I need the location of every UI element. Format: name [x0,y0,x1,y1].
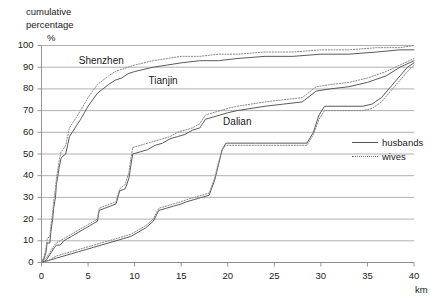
x-tick-label-30: 30 [309,270,333,281]
y-tick-label-90: 90 [12,61,34,72]
legend-swatch-husbands [352,142,378,143]
y-axis-title-line1: cumulative [26,6,71,17]
y-axis-title: cumulativepercentage [26,6,74,31]
series-label-tianjin: Tianjin [149,75,178,86]
x-tick-label-10: 10 [123,270,147,281]
legend-swatch-wives [352,156,378,157]
y-tick-label-60: 60 [12,126,34,137]
curve-dalian-wives [42,65,415,262]
y-tick-label-0: 0 [12,256,34,267]
y-tick-label-50: 50 [12,148,34,159]
x-axis-title: km [415,284,428,295]
legend: husbandswives [352,136,423,163]
y-tick-label-10: 10 [12,234,34,245]
legend-label-wives: wives [382,151,406,162]
y-tick-label-70: 70 [12,104,34,115]
x-tick-label-15: 15 [169,270,193,281]
x-tick-label-5: 5 [76,270,100,281]
x-tick-label-35: 35 [355,270,379,281]
x-tick-label-20: 20 [216,270,240,281]
y-axis-unit: % [47,32,55,43]
x-tick-label-25: 25 [262,270,286,281]
y-tick-label-30: 30 [12,191,34,202]
y-tick-label-80: 80 [12,82,34,93]
y-tick-label-20: 20 [12,213,34,224]
x-tick-label-0: 0 [30,270,54,281]
y-tick-label-40: 40 [12,169,34,180]
legend-item-husbands: husbands [352,136,423,149]
y-tick-label-100: 100 [12,39,34,50]
cumulative-percentage-chart: cumulativepercentage % km 01020304050607… [0,0,440,302]
y-axis-title-line2: percentage [26,19,74,30]
legend-label-husbands: husbands [382,137,423,148]
x-tick-label-40: 40 [402,270,426,281]
series-label-shenzhen: Shenzhen [79,55,124,66]
legend-item-wives: wives [352,150,423,163]
series-label-dalian: Dalian [223,116,251,127]
